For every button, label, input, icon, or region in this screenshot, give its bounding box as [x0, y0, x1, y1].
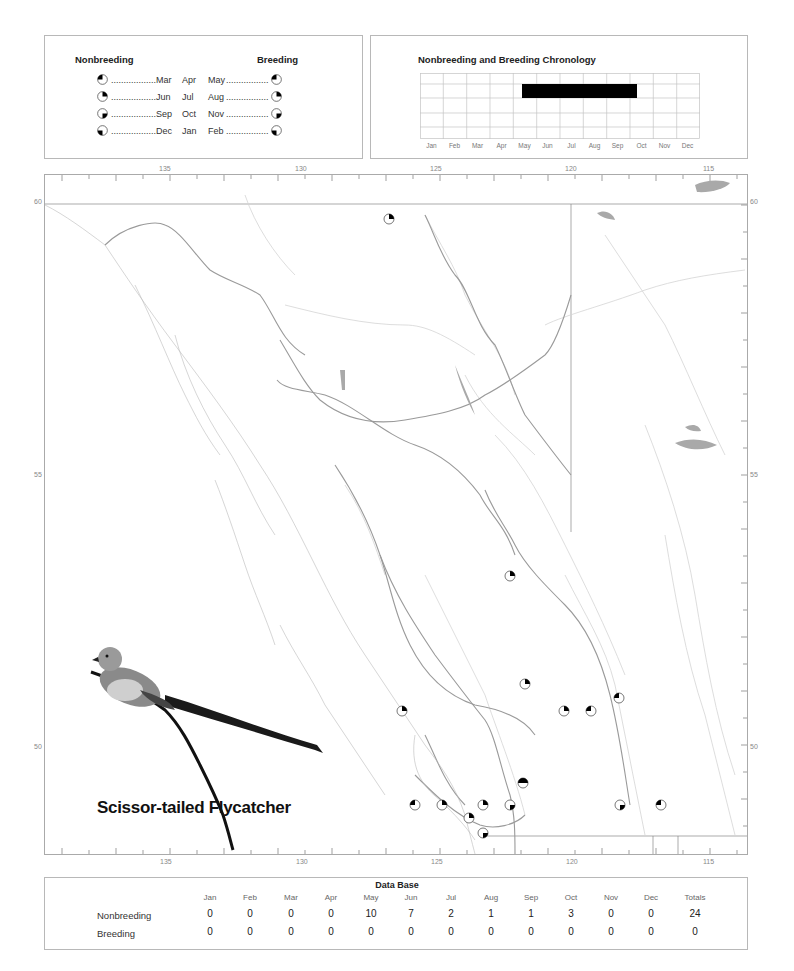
- legend-nonbreeding-heading: Nonbreeding: [75, 54, 134, 65]
- table-cell: 1: [516, 908, 546, 919]
- table-cell: 0: [636, 926, 666, 937]
- column-header: Jan: [195, 893, 225, 902]
- distribution-map: [44, 174, 748, 855]
- table-cell: 0: [235, 926, 265, 937]
- legend-breeding-month: Aug: [208, 92, 224, 102]
- pie-quarter-top-left-icon: [97, 74, 108, 85]
- chrono-month-label: Sep: [606, 142, 629, 149]
- record-marker-icon: [384, 214, 394, 224]
- lakes: [340, 181, 730, 450]
- table-cell: 0: [396, 926, 426, 937]
- column-header: Dec: [636, 893, 666, 902]
- column-header: Jun: [396, 893, 426, 902]
- chrono-month-label: Apr: [490, 142, 513, 149]
- legend-row: .................. Sep Oct Nov .........…: [45, 108, 364, 122]
- record-marker-icon: [410, 800, 420, 810]
- longitude-label: 125: [431, 858, 443, 865]
- latitude-label: 55: [750, 471, 758, 478]
- longitude-label: 115: [703, 858, 714, 865]
- chrono-month-label: Jan: [420, 142, 443, 149]
- column-header: Apr: [316, 893, 346, 902]
- pie-quarter-bottom-right-icon: [97, 108, 108, 119]
- column-header: May: [356, 893, 386, 902]
- map-ticks: [62, 175, 747, 854]
- legend-dots: .................: [226, 109, 269, 119]
- record-marker-icon: [505, 571, 515, 581]
- pie-quarter-top-right-icon: [97, 91, 108, 102]
- column-header: Mar: [276, 893, 306, 902]
- database-title: Data Base: [45, 880, 749, 890]
- table-cell: 0: [476, 926, 506, 937]
- legend-breeding-month: May: [208, 75, 225, 85]
- record-marker-icon: [615, 800, 625, 810]
- latitude-label: 60: [750, 198, 758, 205]
- pie-quarter-top-right-icon: [271, 91, 282, 102]
- row-label-breeding: Breeding: [97, 928, 135, 939]
- legend-row: .................. Mar Apr May .........…: [45, 74, 364, 88]
- record-markers: [384, 214, 666, 838]
- legend-breeding-heading: Breeding: [257, 54, 298, 65]
- table-cell: 2: [436, 908, 466, 919]
- legend-mid-month: Jul: [182, 92, 194, 102]
- record-marker-icon: [614, 693, 624, 703]
- column-header: Jul: [436, 893, 466, 902]
- table-cell: 0: [636, 908, 666, 919]
- record-marker-icon: [505, 800, 515, 810]
- legend-mid-month: Apr: [182, 75, 196, 85]
- chronology-title: Nonbreeding and Breeding Chronology: [418, 54, 596, 65]
- longitude-label: 115: [703, 165, 714, 172]
- record-marker-icon: [437, 800, 447, 810]
- chrono-month-label: Jun: [536, 142, 559, 149]
- legend-dots: ..................: [111, 75, 156, 85]
- legend-nonbreeding-month: Jun: [156, 92, 171, 102]
- pie-quarter-bottom-left-icon: [271, 125, 282, 136]
- ecoregion-lines: [105, 215, 630, 854]
- pie-quarter-top-left-icon: [271, 74, 282, 85]
- column-header: Nov: [596, 893, 626, 902]
- latitude-label: 60: [34, 198, 42, 205]
- table-cell: 1: [476, 908, 506, 919]
- chrono-month-label: Jul: [560, 142, 583, 149]
- legend-dots: .................: [226, 126, 269, 136]
- latitude-label: 50: [750, 743, 758, 750]
- coastline: [45, 205, 475, 854]
- table-cell: 7: [396, 908, 426, 919]
- political-boundaries: [45, 204, 747, 854]
- table-cell: 0: [276, 908, 306, 919]
- seasonal-legend: Nonbreeding Breeding .................. …: [44, 35, 363, 159]
- pie-quarter-bottom-right-icon: [271, 108, 282, 119]
- table-cell-total: 0: [680, 926, 710, 937]
- legend-breeding-month: Feb: [208, 126, 224, 136]
- chrono-month-label: Dec: [676, 142, 699, 149]
- chronology-grid: [420, 73, 700, 139]
- map-canvas: [45, 175, 747, 854]
- legend-mid-month: Oct: [182, 109, 196, 119]
- legend-nonbreeding-month: Sep: [156, 109, 172, 119]
- table-cell: 0: [516, 926, 546, 937]
- table-cell: 0: [316, 908, 346, 919]
- record-marker-icon: [520, 679, 530, 689]
- column-header: Feb: [235, 893, 265, 902]
- legend-dots: ..................: [111, 92, 156, 102]
- record-marker-icon: [397, 706, 407, 716]
- table-cell: 0: [235, 908, 265, 919]
- legend-dots: .................: [226, 92, 269, 102]
- chrono-month-label: Mar: [466, 142, 489, 149]
- table-cell: 0: [195, 926, 225, 937]
- legend-nonbreeding-month: Mar: [156, 75, 172, 85]
- database-table: Data Base Jan Feb Mar Apr May Jun Jul Au…: [44, 877, 748, 950]
- column-header-totals: Totals: [675, 893, 715, 902]
- column-header: Aug: [476, 893, 506, 902]
- bird-illustration-icon: [91, 647, 323, 850]
- latitude-label: 50: [34, 743, 42, 750]
- longitude-label: 120: [566, 858, 578, 865]
- legend-mid-month: Jan: [182, 126, 197, 136]
- chrono-month-label: Feb: [443, 142, 466, 149]
- legend-dots: .................: [226, 75, 269, 85]
- column-header: Sep: [516, 893, 546, 902]
- longitude-label: 135: [159, 165, 171, 172]
- table-cell: 0: [436, 926, 466, 937]
- table-cell: 0: [276, 926, 306, 937]
- row-label-nonbreeding: Nonbreeding: [97, 910, 151, 921]
- pie-quarter-bottom-left-icon: [97, 125, 108, 136]
